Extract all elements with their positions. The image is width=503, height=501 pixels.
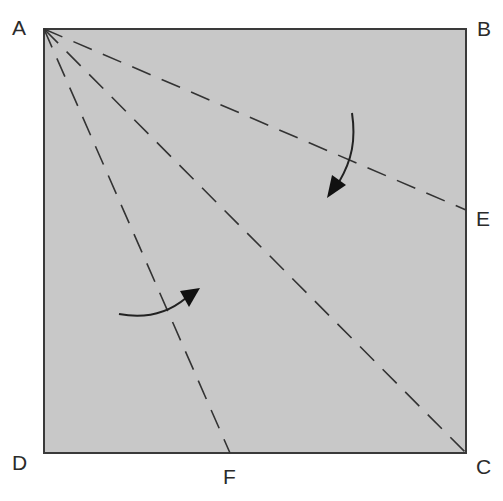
label-D: D <box>12 452 27 473</box>
label-A: A <box>12 17 26 38</box>
origami-diagram: A B E D F C <box>0 0 503 501</box>
label-B: B <box>477 18 491 39</box>
diagram-canvas <box>0 0 503 501</box>
label-E: E <box>476 208 490 229</box>
label-F: F <box>223 466 236 487</box>
label-C: C <box>476 456 491 477</box>
